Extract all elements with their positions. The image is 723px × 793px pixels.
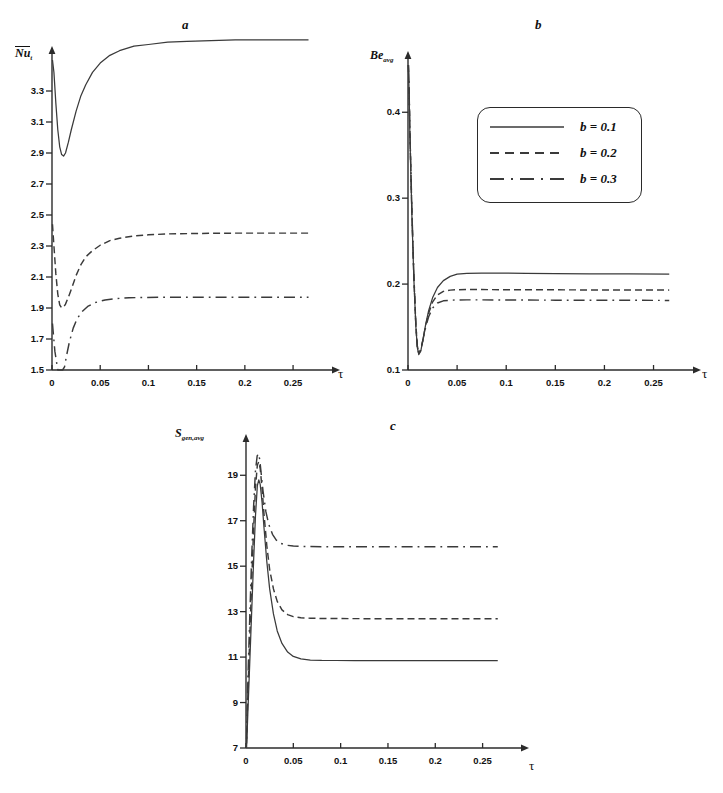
- y-tick-label: 2.1: [12, 271, 44, 282]
- legend: b = 0.1 b = 0.2 b = 0.3: [477, 107, 642, 203]
- y-tick-label: 2.5: [12, 209, 44, 220]
- x-tick-label: 0.1: [494, 377, 518, 388]
- panel-a-plot: [0, 0, 363, 400]
- x-tick-label: 0.15: [376, 755, 400, 766]
- panel-a-y-axis-title: Nut: [15, 46, 32, 62]
- x-tick-label: 0.05: [445, 377, 469, 388]
- panel-c-plot: [160, 400, 580, 793]
- y-tick-label: 0.3: [368, 192, 400, 203]
- panel-a-x-axis-title: τ: [338, 366, 343, 382]
- y-tick-label: 3.1: [12, 116, 44, 127]
- sgen-label: S: [175, 426, 182, 440]
- x-tick-label: 0.1: [136, 377, 160, 388]
- legend-dashdot-line: [488, 173, 566, 185]
- y-tick-label: 19: [206, 469, 238, 480]
- panel-c-y-axis-title: Sgen,avg: [175, 426, 204, 442]
- legend-solid-line: [488, 121, 566, 133]
- y-tick-label: 7: [206, 742, 238, 753]
- x-tick-label: 0.25: [281, 377, 305, 388]
- y-tick-label: 1.7: [12, 333, 44, 344]
- x-tick-label: 0.15: [185, 377, 209, 388]
- panel-b-x-axis-title: τ: [702, 366, 707, 382]
- y-tick-label: 9: [206, 697, 238, 708]
- x-tick-label: 0.15: [543, 377, 567, 388]
- panel-b-y-axis-title: Beavg: [370, 48, 393, 64]
- y-tick-label: 1.5: [12, 364, 44, 375]
- x-tick-label: 0: [234, 755, 258, 766]
- panel-b: b Beavg τ b = 0.1 b = 0.2 b = 0.3 00.050…: [360, 0, 723, 400]
- panel-c: c Sgen,avg τ 00.050.10.150.20.2579111315…: [160, 400, 580, 793]
- nu-overbar-label: Nu: [15, 46, 30, 60]
- x-tick-label: 0.2: [233, 377, 257, 388]
- nu-subscript: t: [30, 54, 32, 62]
- legend-row: b = 0.1: [478, 114, 641, 140]
- legend-label-b2: b = 0.2: [580, 145, 617, 161]
- x-tick-label: 0.25: [642, 377, 666, 388]
- panel-a-label: a: [182, 17, 189, 33]
- y-tick-label: 2.9: [12, 147, 44, 158]
- y-tick-label: 1.9: [12, 302, 44, 313]
- x-tick-label: 0.05: [88, 377, 112, 388]
- y-tick-label: 13: [206, 606, 238, 617]
- series-line: [247, 480, 498, 748]
- x-tick-label: 0: [396, 377, 420, 388]
- x-tick-label: 0.2: [423, 755, 447, 766]
- series-line: [247, 454, 498, 739]
- series-line: [52, 297, 308, 370]
- sgen-subscript: gen,avg: [182, 434, 204, 442]
- be-subscript: avg: [383, 56, 393, 64]
- legend-label-b3: b = 0.3: [580, 171, 617, 187]
- panel-b-label: b: [535, 17, 542, 33]
- y-tick-label: 2.7: [12, 178, 44, 189]
- x-tick-label: 0: [40, 377, 64, 388]
- series-line: [247, 462, 498, 744]
- panel-c-x-axis-title: τ: [529, 758, 534, 774]
- y-tick-label: 15: [206, 560, 238, 571]
- x-tick-label: 0.2: [592, 377, 616, 388]
- x-tick-label: 0.1: [329, 755, 353, 766]
- panel-c-label: c: [390, 418, 396, 434]
- x-tick-label: 0.05: [281, 755, 305, 766]
- legend-label-b1: b = 0.1: [580, 119, 617, 135]
- y-tick-label: 0.2: [368, 278, 400, 289]
- y-tick-label: 17: [206, 515, 238, 526]
- legend-row: b = 0.2: [478, 140, 641, 166]
- series-line: [52, 224, 308, 308]
- y-tick-label: 2.3: [12, 240, 44, 251]
- y-tick-label: 11: [206, 651, 238, 662]
- y-tick-label: 0.4: [368, 106, 400, 117]
- legend-row: b = 0.3: [478, 166, 641, 192]
- series-line: [52, 40, 308, 156]
- y-tick-label: 3.3: [12, 85, 44, 96]
- legend-dashed-line: [488, 147, 566, 159]
- be-label: Be: [370, 48, 383, 62]
- x-tick-label: 0.25: [471, 755, 495, 766]
- panel-a: a Nut τ 00.050.10.150.20.251.51.71.92.12…: [0, 0, 363, 400]
- y-tick-label: 0.1: [368, 364, 400, 375]
